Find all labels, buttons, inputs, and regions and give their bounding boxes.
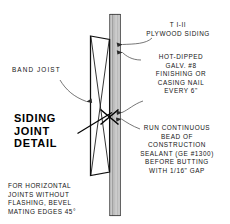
- note-bevel-horizontal-joints: FOR HORIZONTAL JOINTS WITHOUT FLASHING, …: [8, 182, 120, 216]
- note-plywood-siding: T I-II PLYWOOD SIDING: [128, 21, 228, 38]
- leader-band-joist: [60, 80, 87, 102]
- arrowhead-band-joist: [86, 98, 92, 103]
- siding-joint-detail-sheet: T I-II PLYWOOD SIDING HOT-DIPPED GALV. #…: [0, 0, 230, 224]
- note-sealant-spec: RUN CONTINUOUS BEAD OF CONSTRUCTION SEAL…: [126, 124, 228, 176]
- leader-plywood: [123, 38, 153, 45]
- leader-nail-joint: [122, 101, 143, 113]
- note-nail-spec: HOT-DIPPED GALV. #8 FINISHING OR CASING …: [134, 53, 228, 96]
- detail-title: SIDING JOINT DETAIL: [14, 112, 96, 150]
- label-band-joist: BAND JOIST: [12, 66, 96, 75]
- band-joist-section: [91, 36, 110, 176]
